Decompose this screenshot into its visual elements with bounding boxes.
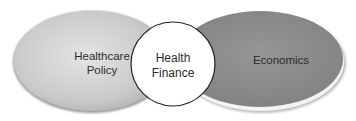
health-finance-line2: Finance (123, 66, 223, 81)
health-finance-label: Health Finance (123, 51, 223, 81)
venn-diagram: Healthcare Policy Health Finance Economi… (0, 0, 356, 121)
economics-text: Economics (236, 53, 326, 67)
health-finance-line1: Health (123, 51, 223, 66)
economics-label: Economics (236, 53, 326, 67)
